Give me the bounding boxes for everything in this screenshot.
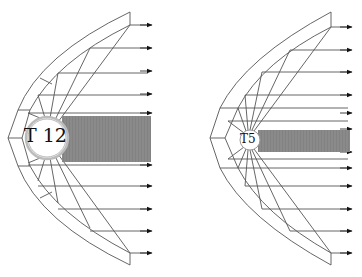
left-shadow-band xyxy=(62,116,151,162)
reflector-comparison-diagram: T 12 T5 xyxy=(0,0,362,277)
right-lamp-label: T5 xyxy=(240,132,256,146)
left-lamp-label: T 12 xyxy=(24,124,67,146)
right-shadow-band xyxy=(258,130,350,152)
